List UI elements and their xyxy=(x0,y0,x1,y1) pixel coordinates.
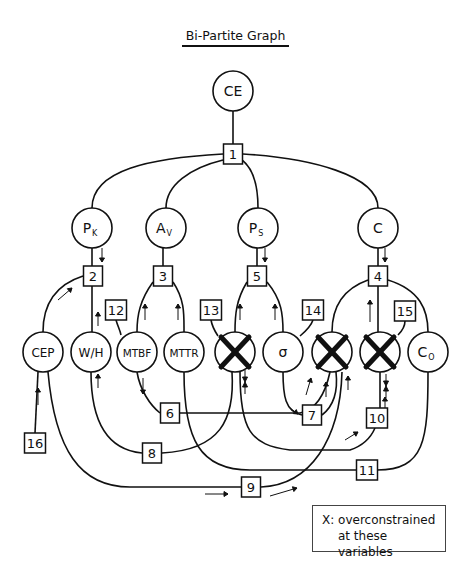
legend-line-2: at these variables xyxy=(322,528,445,560)
edge xyxy=(243,154,378,208)
variable-label: σ xyxy=(279,344,288,360)
constraint-label: 7 xyxy=(308,408,316,423)
constraint-box-10: 10 xyxy=(367,408,388,428)
variable-node-X1 xyxy=(215,332,255,372)
constraint-label: 12 xyxy=(108,303,125,318)
arrow-icon xyxy=(346,376,351,390)
edge xyxy=(43,276,83,332)
variable-node-C: C xyxy=(358,208,398,248)
bidirectional-arrow-icon xyxy=(384,374,389,398)
constraint-label: 14 xyxy=(305,303,322,318)
constraint-label: 3 xyxy=(159,269,167,284)
legend-line-1: X: overconstrained xyxy=(322,512,445,528)
variable-node-Pk: PK xyxy=(72,208,112,248)
variable-node-Ps: PS xyxy=(238,208,278,248)
arrow-icon xyxy=(205,492,228,497)
constraints-layer: 12354121314156710168119 xyxy=(25,144,416,497)
edge xyxy=(283,372,302,415)
constraint-box-3: 3 xyxy=(154,266,173,286)
constraint-box-1: 1 xyxy=(224,144,243,164)
variable-node-X3 xyxy=(360,332,400,372)
variable-node-MTTR: MTTR xyxy=(164,332,204,372)
constraint-box-4: 4 xyxy=(369,266,388,286)
arrow-icon xyxy=(96,312,101,326)
bidirectional-arrow-icon xyxy=(243,370,248,394)
constraint-label: 6 xyxy=(166,406,174,421)
constraint-label: 11 xyxy=(359,463,376,478)
edges-layer xyxy=(35,111,428,487)
arrow-icon xyxy=(270,487,297,496)
edge xyxy=(300,320,313,336)
constraint-box-14: 14 xyxy=(303,300,324,320)
arrow-icon xyxy=(383,248,388,262)
arrow-icon xyxy=(143,304,148,320)
constraint-label: 4 xyxy=(374,269,382,284)
legend-box: X: overconstrained at these variables xyxy=(312,505,446,552)
edge xyxy=(242,160,258,208)
variable-node-CEP: CEP xyxy=(23,332,63,372)
constraint-box-6: 6 xyxy=(161,403,180,423)
constraint-box-15: 15 xyxy=(395,301,416,321)
arrow-icon xyxy=(345,432,358,440)
constraint-label: 13 xyxy=(203,303,220,318)
arrow-icon xyxy=(263,248,268,262)
arrow-icon xyxy=(58,288,72,300)
variable-label: CEP xyxy=(31,346,54,360)
constraint-box-12: 12 xyxy=(106,300,127,320)
constraint-box-16: 16 xyxy=(25,433,46,453)
variable-label: C xyxy=(373,220,383,236)
arrow-icon xyxy=(306,378,312,395)
constraint-label: 16 xyxy=(27,436,44,451)
edge xyxy=(92,154,223,208)
variable-node-X2 xyxy=(312,332,352,372)
constraint-label: 2 xyxy=(89,269,97,284)
constraint-box-7: 7 xyxy=(303,405,322,425)
edge xyxy=(184,372,357,470)
variable-label: CE xyxy=(224,83,243,99)
arrow-icon xyxy=(273,304,278,320)
arrow-icon xyxy=(100,248,105,262)
constraint-box-8: 8 xyxy=(143,443,162,463)
constraint-box-13: 13 xyxy=(201,300,222,320)
constraint-label: 1 xyxy=(229,147,237,162)
variable-label: MTBF xyxy=(123,347,152,359)
constraint-box-11: 11 xyxy=(357,460,378,480)
constraint-box-2: 2 xyxy=(84,266,103,286)
arrow-icon xyxy=(96,374,101,388)
constraint-label: 5 xyxy=(253,269,261,284)
edge xyxy=(137,372,160,413)
variable-node-Co: CO xyxy=(408,332,448,372)
variable-label: MTTR xyxy=(170,347,199,359)
edge xyxy=(166,160,223,208)
arrow-icon xyxy=(238,304,243,320)
edge xyxy=(48,372,241,487)
edge xyxy=(322,372,337,415)
variable-node-sigma: σ xyxy=(263,332,303,372)
variable-node-MTBF: MTBF xyxy=(117,332,157,372)
constraint-label: 10 xyxy=(369,411,386,426)
arrow-icon xyxy=(368,300,373,322)
constraint-label: 9 xyxy=(247,480,255,495)
edge xyxy=(398,321,405,335)
constraint-box-5: 5 xyxy=(248,266,267,286)
variable-node-Av: AV xyxy=(146,208,186,248)
edge xyxy=(91,372,142,453)
arrow-icon xyxy=(176,304,181,320)
variable-label: W/H xyxy=(79,346,104,360)
variable-node-WH: W/H xyxy=(71,332,111,372)
bipartite-graph: CEPKAVPSCCEPW/HMTBFMTTRσCO 1235412131415… xyxy=(0,0,471,579)
edge xyxy=(211,320,218,336)
edge xyxy=(116,320,121,335)
variable-node-CE: CE xyxy=(213,71,253,111)
edge xyxy=(332,280,368,332)
constraint-box-9: 9 xyxy=(242,477,261,497)
constraint-label: 15 xyxy=(397,304,414,319)
constraint-label: 8 xyxy=(148,446,156,461)
